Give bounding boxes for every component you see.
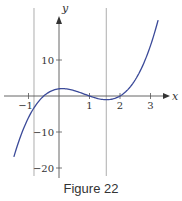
x-tick-label: 2 bbox=[117, 100, 123, 111]
vertical-reference-lines bbox=[34, 8, 106, 176]
y-tick-label: −20 bbox=[33, 163, 54, 174]
figure-caption: Figure 22 bbox=[0, 181, 182, 196]
x-tick-label: 1 bbox=[86, 100, 92, 111]
x-tick-label: 3 bbox=[147, 100, 153, 111]
y-axis-arrow-icon bbox=[56, 16, 62, 24]
x-tick-label: −1 bbox=[18, 100, 33, 111]
cubic-function-plot: −112310−10−20 x y bbox=[0, 0, 182, 180]
y-tick-label: 10 bbox=[41, 55, 54, 66]
tick-marks: −112310−10−20 bbox=[18, 55, 154, 174]
y-axis-label: y bbox=[61, 2, 69, 15]
y-tick-label: −10 bbox=[33, 127, 54, 138]
x-axis-arrow-icon bbox=[163, 93, 170, 99]
x-axis-label: x bbox=[172, 90, 179, 103]
